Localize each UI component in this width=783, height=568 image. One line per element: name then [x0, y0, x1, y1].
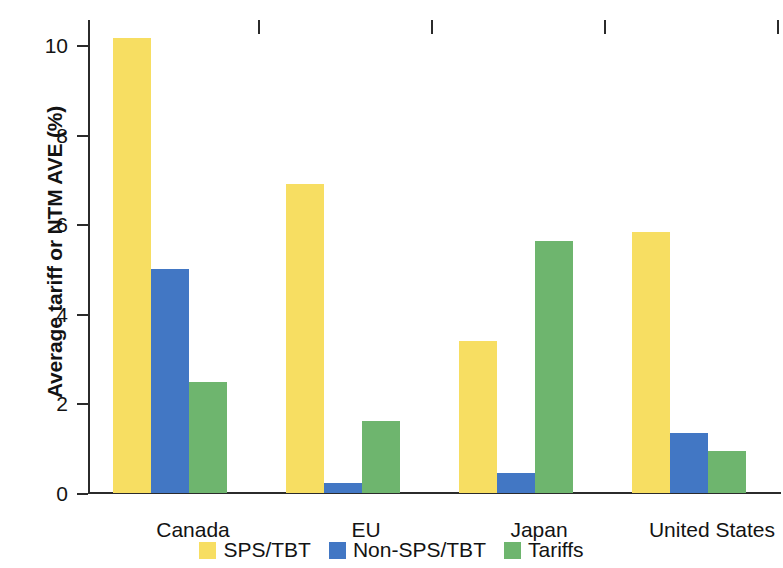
- y-axis-tick-label-0: 0: [56, 482, 68, 506]
- bar-sps: [113, 38, 151, 493]
- y-axis-tick-label-6: 6: [56, 213, 68, 237]
- bar-chart: Average tariff or NTM AVE (%) 0246810 Ca…: [0, 0, 783, 568]
- y-axis-tick-0: 0: [77, 493, 88, 495]
- bars: [459, 20, 619, 493]
- bar-group-japan: [459, 20, 619, 493]
- bar-nonsps: [497, 473, 535, 493]
- bars: [113, 20, 273, 493]
- y-axis-tick-label-10: 10: [45, 34, 68, 58]
- bar-group-eu: [286, 20, 446, 493]
- legend-swatch-sps-icon: [199, 542, 216, 559]
- bar-nonsps: [324, 483, 362, 493]
- y-axis-tick-2: 2: [77, 403, 88, 405]
- y-axis-tick-10: 10: [77, 45, 88, 47]
- y-axis-tick-label-4: 4: [56, 303, 68, 327]
- legend-label-non-sps: Non-SPS/TBT: [353, 538, 486, 562]
- y-axis-tick-4: 4: [77, 314, 88, 316]
- chart-legend: SPS/TBT Non-SPS/TBT Tariffs: [0, 538, 783, 562]
- legend-item-tariffs: Tariffs: [504, 538, 584, 562]
- bar-sps: [632, 232, 670, 493]
- y-axis-tick-label-2: 2: [56, 392, 68, 416]
- legend-label-sps: SPS/TBT: [223, 538, 311, 562]
- bar-sps: [459, 341, 497, 493]
- legend-item-non-sps: Non-SPS/TBT: [329, 538, 486, 562]
- plot-area: 0246810 CanadaEUJapanUnited States: [88, 20, 779, 493]
- bar-sps: [286, 184, 324, 493]
- bar-nonsps: [151, 269, 189, 493]
- bar-group-canada: [113, 20, 273, 493]
- legend-swatch-non-sps-icon: [329, 542, 346, 559]
- bar-tariff: [535, 241, 573, 493]
- bars: [632, 20, 783, 493]
- legend-item-sps: SPS/TBT: [199, 538, 311, 562]
- bars: [286, 20, 446, 493]
- y-axis-tick-8: 8: [77, 135, 88, 137]
- bar-tariff: [708, 451, 746, 493]
- legend-label-tariffs: Tariffs: [528, 538, 584, 562]
- bar-nonsps: [670, 433, 708, 493]
- bar-tariff: [362, 421, 400, 493]
- legend-swatch-tariffs-icon: [504, 542, 521, 559]
- bar-tariff: [189, 382, 227, 493]
- y-axis-tick-label-8: 8: [56, 124, 68, 148]
- bar-group-united-states: [632, 20, 783, 493]
- y-axis-tick-6: 6: [77, 224, 88, 226]
